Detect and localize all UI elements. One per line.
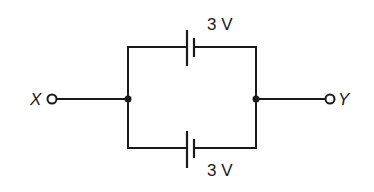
circuit-svg: X Y 3 V 3 V	[0, 0, 374, 192]
bottom-cell-emf-label: 3 V	[207, 161, 233, 180]
right-junction-dot	[253, 96, 260, 103]
circuit-diagram: X Y 3 V 3 V	[0, 0, 374, 192]
terminal-x-icon	[48, 95, 57, 104]
terminal-y-label: Y	[338, 90, 351, 109]
bottom-cell-icon	[187, 131, 194, 168]
top-cell-icon	[187, 30, 194, 66]
left-junction-dot	[125, 96, 132, 103]
top-cell-emf-label: 3 V	[207, 15, 233, 34]
terminal-y-icon	[326, 95, 335, 104]
terminal-x-label: X	[29, 90, 42, 109]
